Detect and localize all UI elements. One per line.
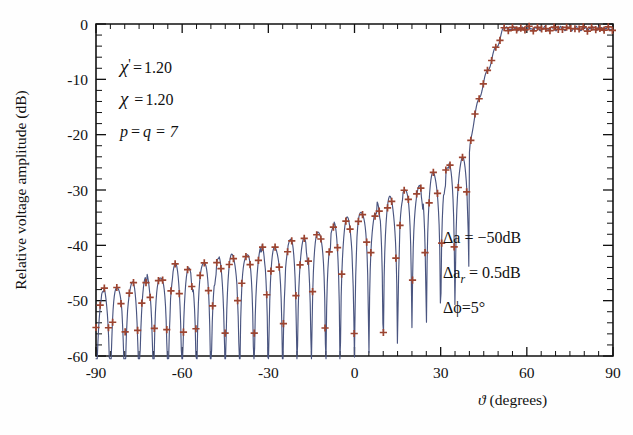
y-tick-label: -20 — [67, 126, 88, 143]
annotation-group-top-left: χ'=1.20 χ=1.20 p=q = 7 — [118, 56, 179, 141]
y-tick-label: 0 — [80, 16, 88, 33]
x-tick-label: -60 — [172, 364, 193, 381]
x-tick-label: 0 — [351, 364, 359, 381]
theta-symbol: ϑ — [478, 391, 487, 408]
antenna-pattern-chart: 0-10-20-30-40-50-60 -90-60-300306090 Rel… — [0, 0, 633, 435]
annotation-chi: χ=1.20 — [118, 88, 173, 109]
y-tick-label: -50 — [67, 292, 88, 309]
y-tick-label: -30 — [67, 182, 88, 199]
x-tick-label: 60 — [519, 364, 535, 381]
x-tick-label: 30 — [433, 364, 449, 381]
x-tick-labels: -90-60-300306090 — [86, 364, 621, 381]
y-axis-title: Relative voltage amplitude (dB) — [12, 90, 30, 289]
x-tick-label: -30 — [258, 364, 279, 381]
annotation-p-q: p=q = 7 — [119, 123, 179, 141]
annotation-delta-phi: Δϕ=5° — [443, 299, 485, 317]
x-axis-title: ϑ(degrees) — [478, 391, 547, 409]
plot-frame — [96, 24, 613, 356]
x-tick-label: -90 — [86, 364, 107, 381]
figure-container: 0-10-20-30-40-50-60 -90-60-300306090 Rel… — [0, 0, 633, 435]
svg-text:ϑ(degrees): ϑ(degrees) — [478, 391, 547, 409]
x-axis-unit: (degrees) — [490, 391, 548, 409]
annotation-delta-a: Δa = −50dB — [443, 229, 521, 246]
y-tick-labels: 0-10-20-30-40-50-60 — [67, 16, 88, 365]
x-tick-label: 90 — [605, 364, 621, 381]
y-tick-label: -10 — [67, 71, 88, 88]
y-tick-label: -60 — [67, 348, 88, 365]
annotation-chi-prime: χ'=1.20 — [118, 56, 172, 77]
y-tick-label: -40 — [67, 237, 88, 254]
